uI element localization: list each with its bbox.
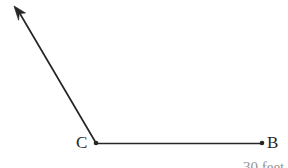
geometry-figure: C B 30 feet — [0, 0, 288, 168]
endpoint-dot-b — [260, 141, 265, 146]
clipped-caption-text: 30 feet — [243, 160, 284, 168]
vertex-dot-c — [94, 141, 99, 146]
figure-canvas — [0, 0, 288, 168]
vertex-label-c: C — [76, 134, 87, 151]
vertex-label-b: B — [267, 134, 278, 151]
